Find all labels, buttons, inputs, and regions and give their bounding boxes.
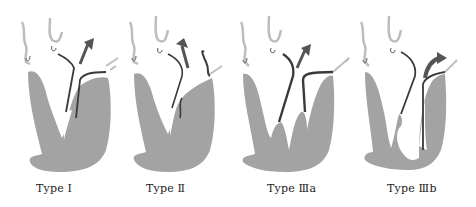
outflow-line — [202, 51, 210, 76]
panel-label: Type Ⅱ — [146, 182, 185, 195]
heart-myocardium — [364, 72, 446, 170]
flow-arrow-shaft — [297, 50, 305, 68]
heart-diagram-type-1 — [0, 0, 120, 207]
heart-diagram-type-2 — [110, 0, 230, 207]
panel-label: Type Ⅰ — [36, 182, 72, 195]
panel-type-1: Type Ⅰ — [0, 0, 120, 207]
flow-arrow-shaft — [182, 46, 188, 68]
flow-arrow-shaft — [80, 44, 88, 64]
septum-line — [168, 54, 182, 108]
panel-type-3b: Type Ⅲb — [345, 0, 476, 207]
panel-type-3a: Type Ⅲa — [225, 0, 355, 207]
panel-label: Type Ⅲa — [267, 182, 316, 195]
vessel-left — [22, 22, 30, 64]
heart-myocardium — [28, 71, 111, 172]
heart-diagram-type-3b — [345, 0, 476, 207]
heart-myocardium — [134, 73, 215, 172]
vessel-center — [50, 18, 63, 42]
septum-line — [279, 54, 293, 122]
heart-diagram-type-3a — [225, 0, 355, 207]
panel-label: Type Ⅲb — [387, 182, 437, 195]
flow-arrow-icon — [437, 52, 447, 64]
septum-line — [401, 52, 415, 114]
panel-type-2: Type Ⅱ — [110, 0, 230, 207]
